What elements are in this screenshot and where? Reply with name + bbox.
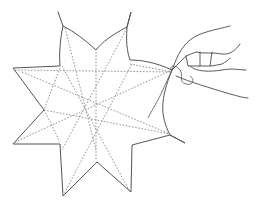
fold-line [130, 64, 172, 72]
hand-line [190, 66, 246, 71]
hand-line [176, 76, 248, 98]
fold-line [15, 70, 172, 72]
hand-drawing [172, 26, 248, 98]
illustration-canvas [0, 0, 256, 209]
fold-line [44, 110, 170, 134]
thread-line [148, 70, 172, 118]
hand-line [186, 56, 230, 66]
fold-line [15, 70, 172, 142]
star-illustration [0, 0, 256, 209]
thread [148, 66, 193, 118]
thread-line [171, 66, 193, 84]
fold-lines [15, 28, 172, 194]
hand-line [172, 26, 230, 70]
hand-line [210, 52, 212, 66]
fold-line [44, 68, 60, 142]
fold-line [64, 64, 132, 194]
fold-line [62, 28, 127, 150]
